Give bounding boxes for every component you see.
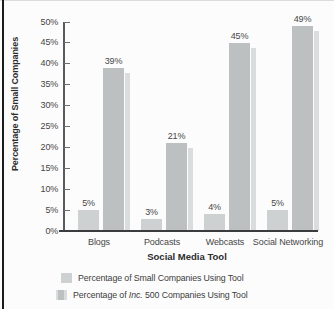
- y-tick-label-30-: 30%: [26, 100, 58, 110]
- bar-shadow-podcasts: [188, 148, 193, 231]
- bar-value-label-blogs-inc-500: 39%: [105, 56, 122, 66]
- bar-value-label-podcasts-small-companies: 3%: [145, 207, 158, 217]
- y-tick-45-: [64, 42, 70, 43]
- y-axis-title: Percentage of Small Companies: [10, 37, 20, 171]
- bar-value-label-social-networking-small-companies: 5%: [271, 198, 284, 208]
- legend-item-inc-500: Percentage of Inc. 500 Companies Using T…: [56, 290, 248, 300]
- legend-label-inc-500: Percentage of Inc. 500 Companies Using T…: [73, 290, 248, 300]
- y-tick-40-: [64, 63, 70, 64]
- y-tick-label-0-: 0%: [26, 226, 58, 236]
- bar-group-blogs: 5%39%: [78, 68, 124, 231]
- y-tick-35-: [64, 84, 70, 85]
- figure-top-border: [0, 0, 334, 1]
- legend-item-small-companies: Percentage of Small Companies Using Tool: [61, 273, 248, 283]
- bar-blogs-inc-500: 39%: [103, 68, 124, 231]
- bar-social-networking-inc-500: 49%: [292, 26, 313, 231]
- bar-webcasts-inc-500: 45%: [229, 43, 250, 231]
- bar-value-label-social-networking-inc-500: 49%: [294, 14, 311, 24]
- bar-group-social-networking: 5%49%: [267, 26, 313, 231]
- bar-value-label-webcasts-inc-500: 45%: [231, 31, 248, 41]
- bar-value-label-blogs-small-companies: 5%: [82, 198, 95, 208]
- bar-social-networking-small-companies: 5%: [267, 210, 288, 231]
- bar-shadow-webcasts: [251, 48, 256, 231]
- y-tick-label-25-: 25%: [26, 121, 58, 131]
- bar-value-label-podcasts-inc-500: 21%: [168, 131, 185, 141]
- y-tick-20-: [64, 147, 70, 148]
- y-tick-label-15-: 15%: [26, 163, 58, 173]
- y-tick-label-5-: 5%: [26, 205, 58, 215]
- bar-group-podcasts: 3%21%: [141, 143, 187, 231]
- y-tick-label-40-: 40%: [26, 58, 58, 68]
- y-tick-30-: [64, 105, 70, 106]
- bar-webcasts-small-companies: 4%: [204, 214, 225, 231]
- bar-shadow-blogs: [125, 73, 130, 231]
- legend-label-small-companies: Percentage of Small Companies Using Tool: [78, 273, 244, 283]
- y-tick-10-: [64, 189, 70, 190]
- y-tick-label-35-: 35%: [26, 79, 58, 89]
- x-axis-line: [59, 230, 318, 232]
- y-tick-label-45-: 45%: [26, 37, 58, 47]
- chart-legend: Percentage of Small Companies Using Tool…: [56, 273, 248, 300]
- legend-swatch-small-companies: [61, 273, 72, 283]
- x-category-label-webcasts: Webcasts: [206, 237, 245, 247]
- bar-blogs-small-companies: 5%: [78, 210, 99, 231]
- legend-swatch-inc-500: [56, 290, 67, 300]
- bar-chart-figure: Percentage of Small Companies 5%39%3%21%…: [0, 0, 334, 309]
- x-axis-title: Social Media Tool: [147, 251, 227, 262]
- y-tick-label-10-: 10%: [26, 184, 58, 194]
- bar-shadow-social-networking: [314, 31, 319, 231]
- bar-podcasts-inc-500: 21%: [166, 143, 187, 231]
- y-tick-50-: [64, 22, 70, 23]
- y-tick-25-: [64, 126, 70, 127]
- y-tick-label-50-: 50%: [26, 17, 58, 27]
- plot-area: 5%39%3%21%4%45%5%49%: [63, 22, 316, 231]
- y-tick-15-: [64, 168, 70, 169]
- x-category-label-blogs: Blogs: [88, 237, 110, 247]
- figure-left-border: [2, 0, 4, 309]
- x-category-label-social-networking: Social Networking: [253, 237, 323, 247]
- x-category-label-podcasts: Podcasts: [144, 237, 180, 247]
- y-tick-label-20-: 20%: [26, 142, 58, 152]
- y-tick-5-: [64, 210, 70, 211]
- bar-group-webcasts: 4%45%: [204, 43, 250, 231]
- bar-value-label-webcasts-small-companies: 4%: [208, 202, 221, 212]
